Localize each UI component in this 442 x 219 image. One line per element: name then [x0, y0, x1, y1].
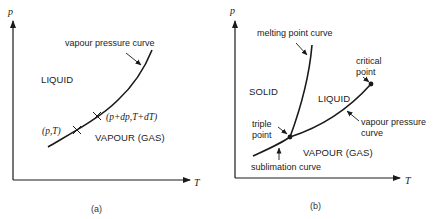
critical-point-label-line2: point [356, 67, 376, 77]
caption-a: (a) [91, 204, 102, 214]
triple-point-label-line1: triple [252, 119, 272, 129]
melting-curve-arrow [296, 43, 307, 55]
region-solid: SOLID [249, 86, 278, 97]
vapour-pressure-arrow [347, 111, 359, 121]
critical-point-label-line1: critical [356, 56, 382, 66]
vapour-pressure-curve-label: vapour pressure curve [65, 38, 155, 48]
region-liquid: LIQUID [41, 74, 73, 85]
critical-point-arrow [363, 77, 369, 82]
point-marker-p-T [73, 126, 81, 134]
x-axis-label: T [194, 177, 201, 188]
sublimation-curve-label: sublimation curve [251, 162, 321, 172]
triple-point-arrow [278, 127, 287, 134]
melting-point-curve [290, 45, 312, 137]
x-axis-label: T [405, 175, 412, 186]
vapour-pressure-curve [290, 84, 371, 137]
triple-point-marker [288, 135, 293, 140]
region-vapour: VAPOUR (GAS) [95, 132, 165, 143]
caption-b: (b) [310, 201, 321, 211]
panel-b: p T melting point curve critical point S… [229, 5, 426, 211]
region-liquid: LIQUID [318, 93, 350, 104]
melting-point-curve-label: melting point curve [257, 28, 333, 38]
critical-point-marker [369, 82, 374, 87]
phase-diagrams: p T vapour pressure curve LIQUID VAPOUR … [0, 0, 442, 219]
y-axis-label: p [229, 5, 235, 16]
panel-a: p T vapour pressure curve LIQUID VAPOUR … [7, 6, 201, 214]
point-label-p-dp-T-dT: (p+dp,T+dT) [106, 112, 157, 123]
vapour-pressure-curve-label-line2: curve [361, 128, 383, 138]
y-axis-label: p [7, 6, 13, 17]
triple-point-label-line2: point [252, 130, 272, 140]
vapour-pressure-curve-label-line1: vapour pressure [361, 117, 426, 127]
region-vapour: VAPOUR (GAS) [303, 147, 373, 158]
point-label-p-T: (p,T) [42, 126, 61, 137]
vapour-pressure-arrow [126, 53, 141, 65]
